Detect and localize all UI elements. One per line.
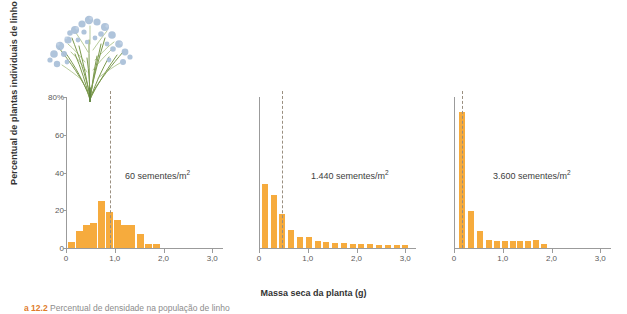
panel-note-1: 1.440 sementes/m2 xyxy=(311,169,389,181)
bar xyxy=(137,234,144,248)
x-axis-1: 01,02,03,0 xyxy=(259,249,416,269)
flax-plant-illustration xyxy=(37,2,143,102)
panel-note-0: 60 sementes/m2 xyxy=(125,169,190,181)
y-axis-tick-label: 80% xyxy=(34,93,64,102)
y-axis-label: Percentual de plantas individuais de lin… xyxy=(9,0,19,193)
bar xyxy=(153,244,160,248)
bar xyxy=(297,237,303,248)
caption-number: a 12.2 xyxy=(24,303,48,313)
x-axis-tick xyxy=(357,249,358,253)
panel-note-sup-2: 2 xyxy=(567,169,571,176)
panel-note-label-0: 60 sementes/m xyxy=(125,171,187,181)
x-axis-tick-label: 1,0 xyxy=(497,254,508,263)
panel-note-2: 3.600 sementes/m2 xyxy=(493,169,571,181)
mean-line-0 xyxy=(110,91,111,248)
x-axis-tick-label: 3,0 xyxy=(400,254,411,263)
x-axis-tick-label: 1,0 xyxy=(109,254,120,263)
panel-1440-sementes: 01,02,03,0 1.440 sementes/m2 xyxy=(243,97,416,272)
x-axis-tick-label: 0 xyxy=(257,254,261,263)
x-axis-tick-label: 3,0 xyxy=(207,254,218,263)
bar xyxy=(288,230,294,248)
bar xyxy=(90,223,97,248)
bar xyxy=(541,244,547,248)
x-axis-tick-label: 2,0 xyxy=(546,254,557,263)
bar xyxy=(525,241,531,248)
bar xyxy=(76,231,83,248)
x-axis-tick xyxy=(454,249,455,253)
bar xyxy=(341,243,347,248)
bar xyxy=(385,245,391,248)
y-axis-tick-label: 60 xyxy=(34,130,64,139)
panel-note-label-2: 3.600 sementes/m xyxy=(493,171,567,181)
y-axis-tick-label: 20 xyxy=(34,206,64,215)
bar xyxy=(306,237,312,248)
bar xyxy=(145,244,152,248)
y-axis-tick-labels: 020406080% xyxy=(30,97,64,249)
bar xyxy=(262,184,268,248)
figure-caption: a 12.2 Percentual de densidade na popula… xyxy=(24,303,584,313)
y-axis-tick xyxy=(63,97,67,98)
bar xyxy=(468,211,474,248)
x-axis-0: 01,02,03,0 xyxy=(66,249,223,269)
x-axis-tick-label: 3,0 xyxy=(595,254,606,263)
bar xyxy=(394,245,400,248)
x-axis-tick-label: 0 xyxy=(64,254,68,263)
bar xyxy=(517,241,523,248)
x-axis-tick xyxy=(503,249,504,253)
bar xyxy=(68,242,75,248)
bar xyxy=(402,245,408,248)
bar xyxy=(323,242,329,248)
bar xyxy=(271,195,277,248)
bar xyxy=(486,240,492,248)
bar xyxy=(502,241,508,248)
y-axis-tick-label: 0 xyxy=(34,244,64,253)
x-axis-tick xyxy=(259,249,260,253)
bar xyxy=(98,201,105,248)
panel-note-sup-1: 2 xyxy=(385,169,389,176)
x-axis-tick xyxy=(552,249,553,253)
bar xyxy=(315,241,321,248)
bar xyxy=(510,241,516,248)
y-axis-tick xyxy=(63,135,67,136)
x-axis-tick-label: 0 xyxy=(452,254,456,263)
x-axis-tick xyxy=(66,249,67,253)
bar xyxy=(128,225,135,248)
bar xyxy=(114,220,121,248)
bar xyxy=(533,240,539,248)
bar xyxy=(494,241,500,248)
y-axis-tick xyxy=(63,210,67,211)
x-axis-tick-label: 2,0 xyxy=(351,254,362,263)
x-axis-2: 01,02,03,0 xyxy=(454,249,611,269)
panel-note-sup-0: 2 xyxy=(187,169,191,176)
y-axis-tick xyxy=(63,173,67,174)
panel-note-label-1: 1.440 sementes/m xyxy=(311,171,385,181)
bar xyxy=(121,225,128,248)
x-axis-tick-label: 2,0 xyxy=(158,254,169,263)
mean-line-1 xyxy=(282,91,283,248)
panel-3600-sementes: 01,02,03,0 3.600 sementes/m2 xyxy=(438,97,611,272)
bar xyxy=(350,244,356,248)
caption-text: Percentual de densidade na população de … xyxy=(50,303,230,313)
x-axis-label: Massa seca da planta (g) xyxy=(0,288,627,298)
bar xyxy=(332,243,338,248)
bar xyxy=(358,244,364,248)
figure-container: Percentual de plantas individuais de lin… xyxy=(0,0,627,314)
y-axis-tick-label: 40 xyxy=(34,168,64,177)
x-axis-tick xyxy=(212,249,213,253)
x-axis-tick xyxy=(115,249,116,253)
x-axis-tick xyxy=(164,249,165,253)
x-axis-tick-label: 1,0 xyxy=(302,254,313,263)
x-axis-tick xyxy=(308,249,309,253)
x-axis-tick xyxy=(600,249,601,253)
bar xyxy=(477,231,483,248)
bar xyxy=(376,245,382,248)
x-axis-tick xyxy=(405,249,406,253)
panel-60-sementes: 020406080% 01,02,03,0 60 sementes/m2 xyxy=(50,97,223,272)
bar xyxy=(83,225,90,248)
bar xyxy=(367,244,373,248)
mean-line-2 xyxy=(462,91,463,248)
